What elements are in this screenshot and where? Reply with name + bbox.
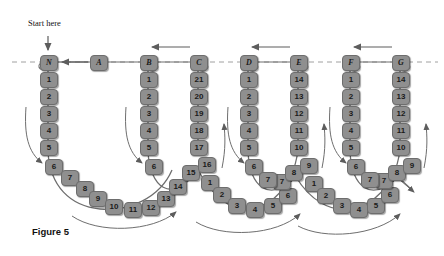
g-up-arrow <box>424 124 427 168</box>
column-node[interactable]: 4 <box>240 123 258 139</box>
c-up-arrow <box>222 124 225 168</box>
column-node[interactable]: 5 <box>140 140 158 156</box>
anchor-node-F[interactable]: F <box>342 55 360 71</box>
column-node[interactable]: 10 <box>392 140 410 156</box>
column-node[interactable]: 2 <box>140 89 158 105</box>
column-node[interactable]: 11 <box>392 123 410 139</box>
column-node[interactable]: 2 <box>40 89 58 105</box>
anchor-node-A[interactable]: A <box>90 55 108 71</box>
anchor-node-C[interactable]: C <box>190 55 208 71</box>
start-here-label: Start here <box>28 18 61 28</box>
column-node[interactable]: 11 <box>290 123 308 139</box>
column-node[interactable]: 3 <box>40 106 58 122</box>
anchor-node-G[interactable]: G <box>392 55 410 71</box>
column-node[interactable]: 1 <box>240 72 258 88</box>
column-node[interactable]: 12 <box>392 106 410 122</box>
column-node[interactable]: 13 <box>290 89 308 105</box>
column-node[interactable]: 10 <box>290 140 308 156</box>
column-node[interactable]: 4 <box>140 123 158 139</box>
curve-node[interactable]: 16 <box>198 157 216 173</box>
column-node[interactable]: 5 <box>40 140 58 156</box>
diagram-lines <box>0 0 444 256</box>
curve-node[interactable]: 9 <box>300 158 318 174</box>
column-node[interactable]: 3 <box>240 106 258 122</box>
column-node[interactable]: 13 <box>392 89 410 105</box>
column-node[interactable]: 20 <box>190 89 208 105</box>
column-node[interactable]: 4 <box>342 123 360 139</box>
curve-node[interactable]: 4 <box>350 202 368 218</box>
anchor-node-N[interactable]: N <box>40 55 58 71</box>
curve-node[interactable]: 3 <box>228 198 246 214</box>
column-node[interactable]: 4 <box>40 123 58 139</box>
curve-node[interactable]: 3 <box>333 198 351 214</box>
curve-node[interactable]: 6 <box>279 188 297 204</box>
column-node[interactable]: 5 <box>240 140 258 156</box>
column-node[interactable]: 14 <box>290 72 308 88</box>
curve-node[interactable]: 7 <box>259 172 277 188</box>
curve-node[interactable]: 10 <box>105 199 123 215</box>
column-node[interactable]: 12 <box>290 106 308 122</box>
curve-node[interactable]: 9 <box>403 158 421 174</box>
anchor-node-B[interactable]: B <box>140 55 158 71</box>
figure-caption: Figure 5 <box>32 226 69 237</box>
curve-node[interactable]: 6 <box>145 159 163 175</box>
column-node[interactable]: 2 <box>342 89 360 105</box>
column-node[interactable]: 17 <box>190 140 208 156</box>
column-node[interactable]: 21 <box>190 72 208 88</box>
e-up-arrow <box>322 124 325 168</box>
bottom-arc-3 <box>298 214 400 234</box>
column-node[interactable]: 19 <box>190 106 208 122</box>
anchor-node-D[interactable]: D <box>240 55 258 71</box>
column-node[interactable]: 1 <box>342 72 360 88</box>
column-node[interactable]: 3 <box>140 106 158 122</box>
anchor-node-E[interactable]: E <box>290 55 308 71</box>
figure-canvas: N A B C D E F G 1 2 3 4 5 1 2 3 4 5 21 2… <box>0 0 444 256</box>
curve-node[interactable]: 4 <box>246 202 264 218</box>
curve-node[interactable]: 14 <box>169 179 187 195</box>
end-arrow <box>400 180 414 192</box>
curve-node[interactable]: 7 <box>361 172 379 188</box>
curve-node[interactable]: 6 <box>381 187 399 203</box>
column-node[interactable]: 14 <box>392 72 410 88</box>
column-node[interactable]: 3 <box>342 106 360 122</box>
curve-node[interactable]: 11 <box>124 202 142 218</box>
column-node[interactable]: 5 <box>342 140 360 156</box>
column-node[interactable]: 1 <box>40 72 58 88</box>
column-node[interactable]: 18 <box>190 123 208 139</box>
column-node[interactable]: 1 <box>140 72 158 88</box>
column-node[interactable]: 2 <box>240 89 258 105</box>
